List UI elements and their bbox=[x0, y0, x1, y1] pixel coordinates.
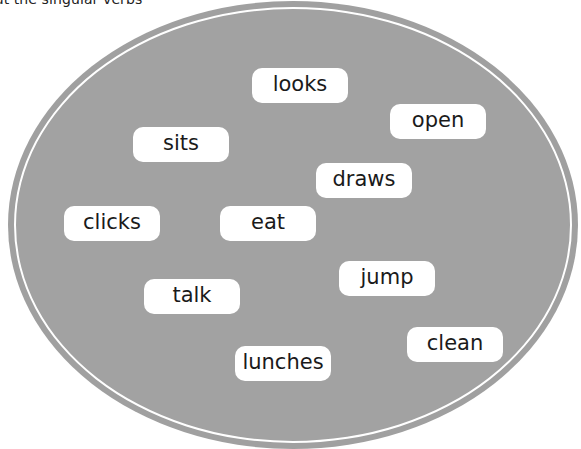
instruction-text: out the singular verbs bbox=[0, 0, 142, 7]
word-card-jump[interactable]: jump bbox=[339, 261, 435, 296]
word-card-eat[interactable]: eat bbox=[220, 206, 316, 241]
word-card-clean[interactable]: clean bbox=[407, 327, 503, 362]
word-card-draws[interactable]: draws bbox=[316, 163, 412, 198]
word-card-sits[interactable]: sits bbox=[133, 127, 229, 162]
word-card-open[interactable]: open bbox=[390, 104, 486, 139]
word-card-clicks[interactable]: clicks bbox=[64, 206, 160, 241]
word-card-talk[interactable]: talk bbox=[144, 279, 240, 314]
word-card-looks[interactable]: looks bbox=[252, 68, 348, 103]
word-card-lunches[interactable]: lunches bbox=[235, 346, 331, 381]
